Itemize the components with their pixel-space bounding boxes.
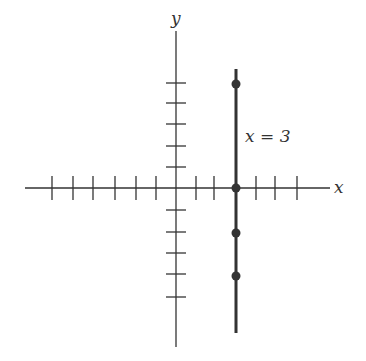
- point-3-0: [232, 184, 241, 193]
- point-3-neg2: [232, 229, 241, 238]
- point-3-5: [232, 80, 241, 89]
- coordinate-plane: y x x = 3: [0, 0, 366, 361]
- x-axis-label: x: [334, 177, 344, 197]
- point-3-neg4: [232, 272, 241, 281]
- y-axis-label: y: [170, 8, 181, 28]
- line-equation-label: x = 3: [245, 126, 290, 146]
